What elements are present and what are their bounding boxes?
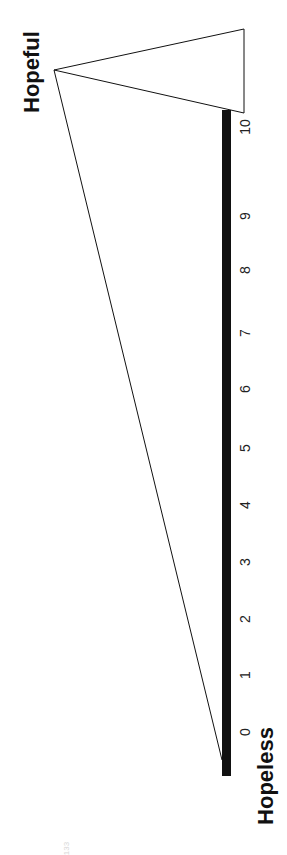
pointer-long-line — [54, 70, 222, 760]
high-label: Hopeful — [20, 26, 44, 118]
low-label: Hopeless — [254, 718, 278, 834]
tick-8: 8 — [237, 260, 253, 280]
tick-4: 4 — [237, 495, 253, 515]
tick-7: 7 — [237, 323, 253, 343]
page-number: 133 — [62, 842, 71, 855]
tick-9: 9 — [237, 206, 253, 226]
tick-0: 0 — [237, 722, 253, 742]
scale-bar — [222, 110, 231, 776]
tick-5: 5 — [237, 438, 253, 458]
tick-2: 2 — [237, 609, 253, 629]
tick-3: 3 — [237, 552, 253, 572]
tick-1: 1 — [237, 665, 253, 685]
tick-6: 6 — [237, 379, 253, 399]
tick-10: 10 — [237, 117, 253, 137]
pointer-triangle — [54, 29, 244, 113]
